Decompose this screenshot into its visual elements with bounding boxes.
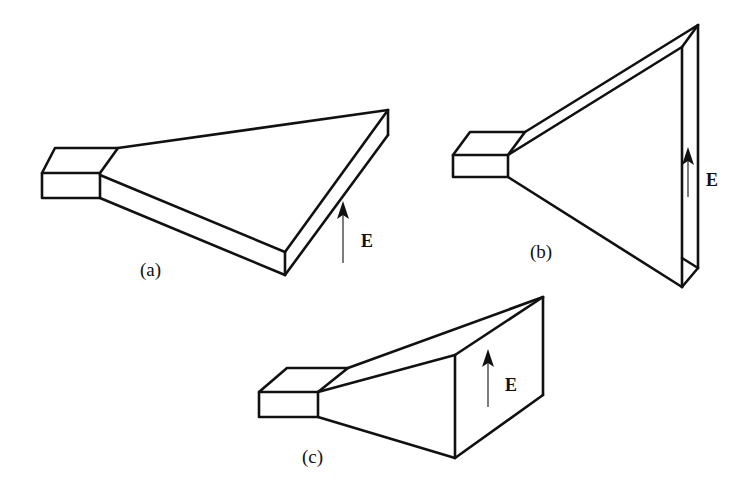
panel-label-c: (c) bbox=[302, 446, 323, 468]
panel-c-pyramidal-horn: E (c) bbox=[259, 297, 543, 468]
horn-flare-a bbox=[100, 110, 388, 275]
panel-a-h-plane-horn: E (a) bbox=[42, 110, 388, 281]
panel-label-a: (a) bbox=[140, 259, 161, 281]
waveguide-a bbox=[42, 148, 118, 198]
e-field-label-a: E bbox=[361, 231, 373, 251]
e-field-arrow-b bbox=[682, 147, 694, 197]
waveguide-c bbox=[259, 368, 348, 417]
waveguide-b bbox=[453, 132, 525, 177]
e-field-label-b: E bbox=[706, 170, 718, 190]
e-field-label-c: E bbox=[505, 375, 517, 395]
horn-antennas-diagram: E (a) E (b) bbox=[0, 0, 756, 496]
e-field-arrow-a bbox=[337, 201, 349, 263]
panel-b-e-plane-horn: E (b) bbox=[453, 25, 718, 287]
panel-label-b: (b) bbox=[530, 241, 552, 263]
e-field-arrow-c bbox=[482, 349, 494, 407]
